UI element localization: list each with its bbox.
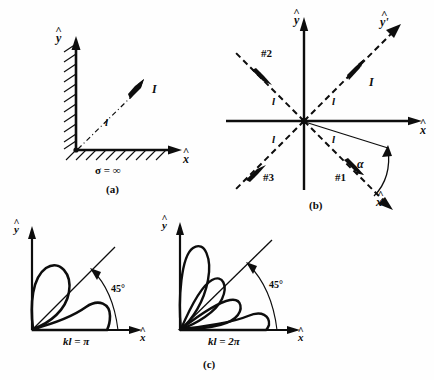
panel-b-y-axis-label: ^y: [294, 14, 299, 26]
panel-a-y-axis-label: ^y: [56, 32, 61, 44]
panel-b-reference-line: [305, 122, 388, 148]
panel-a-x-axis: [76, 146, 182, 155]
vertical-wall-hatching: [64, 44, 76, 149]
panel-a-current-arrow: [128, 79, 144, 99]
panel-b-x-axis-label: ^x: [420, 124, 426, 136]
panel-a-length-label: l: [105, 117, 108, 128]
panel-c-left-graphics: [0, 204, 160, 380]
panel-c-plot-kl-pi: ^y ^x 45° kl = π: [0, 204, 160, 380]
ground-plane-hatching: [66, 150, 166, 160]
figure-page: ^y ^x I l σ = ∞ (a): [0, 0, 434, 380]
panel-c-right-x-axis-label: ^x: [298, 332, 304, 343]
panel-b-image2-label: #2: [261, 48, 272, 59]
panel-b-origin-dot: [301, 118, 307, 124]
panel-c-left-y-axis-label: ^y: [14, 224, 19, 235]
panel-c-right-y-axis-label: ^y: [162, 220, 167, 231]
panel-b-x-axis: [226, 117, 422, 125]
panel-c-right-title: kl = 2π: [208, 336, 240, 347]
panel-c-right-45-arc: [246, 262, 277, 330]
panel-a-caption: (a): [106, 183, 119, 195]
panel-b-length-label-lower-right: l: [332, 134, 335, 145]
panel-c-caption: (c): [203, 358, 215, 370]
panel-c-left-45-arc: [90, 268, 118, 330]
panel-c-left-title: kl = π: [63, 336, 89, 347]
panel-c-right-45-line: [181, 240, 272, 329]
panel-b-y-axis: [300, 17, 308, 190]
panel-b-image2-axis: [234, 51, 304, 121]
panel-b-image2-arrow: [252, 68, 272, 85]
panel-c-left-lobe-2: [33, 303, 110, 330]
panel-b-current-label: I: [369, 76, 374, 88]
panel-a-origin-dot: [73, 147, 78, 152]
panel-a-current-label: I: [152, 83, 157, 95]
panel-c-plot-kl-2pi: ^y ^x 45° kl = 2π: [138, 204, 318, 380]
panel-b-xprime-axis-label: ^x': [376, 196, 385, 208]
panel-b-length-label-upper-left: l: [272, 96, 275, 107]
panel-b-graphics: [208, 0, 434, 216]
panel-b-length-label-upper-right: l: [332, 96, 335, 107]
panel-a-x-axis-label: ^x: [183, 153, 189, 165]
panel-b-image3-label: #3: [263, 172, 274, 183]
panel-b-current-arrow: [347, 59, 364, 80]
panel-a-y-axis: [72, 36, 81, 150]
panel-c-left-45-line: [33, 247, 115, 329]
panel-c-left-angle-label: 45°: [111, 284, 125, 294]
panel-a: ^y ^x I l σ = ∞ (a): [0, 0, 210, 196]
panel-b-yprime-axis-label: ^y': [380, 16, 389, 28]
panel-b-length-label-lower-left: l: [272, 134, 275, 145]
panel-c-right-angle-label: 45°: [269, 280, 283, 290]
panel-a-conductivity-label: σ = ∞: [95, 165, 121, 176]
panel-b: ^y ^x ^y' ^x' I #2 #3 #1 α l l l l (b): [208, 0, 434, 216]
panel-b-angle-label: α: [357, 158, 364, 170]
panel-b-image1-label: #1: [335, 172, 346, 183]
